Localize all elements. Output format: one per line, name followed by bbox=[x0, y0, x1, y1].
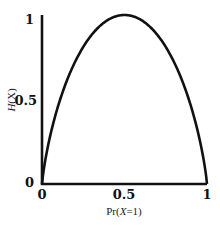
y-axis-label: H(X) bbox=[5, 88, 18, 113]
x-tick-1: 1 bbox=[202, 187, 211, 202]
entropy-chart: 1 0.5 0 0 0.5 1 Pr(X=1) H(X) bbox=[0, 0, 220, 225]
x-tick-0.5: 0.5 bbox=[113, 187, 136, 202]
x-tick-0: 0 bbox=[37, 187, 46, 202]
entropy-curve bbox=[42, 15, 207, 184]
y-tick-0.5: 0.5 bbox=[14, 93, 37, 108]
x-axis-label: Pr(X=1) bbox=[106, 205, 142, 218]
plot-area bbox=[41, 15, 207, 185]
y-tick-0: 0 bbox=[25, 175, 34, 190]
y-tick-1: 1 bbox=[25, 12, 34, 27]
x-ticks: 0 0.5 1 bbox=[37, 187, 211, 202]
y-ticks: 1 0.5 0 bbox=[14, 12, 37, 190]
